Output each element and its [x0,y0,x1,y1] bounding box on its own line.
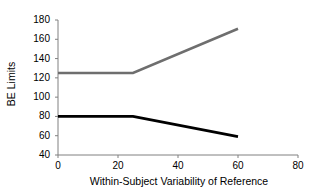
y-axis-title: BE Limits [5,49,17,119]
x-tick-label: 60 [223,161,253,171]
y-tick-label: 80 [20,111,50,121]
chart-container: 406080100120140160180 020406080 BE Limit… [0,0,317,194]
x-axis-title: Within-Subject Variability of Reference [48,175,310,187]
y-tick-label: 40 [20,150,50,160]
x-tick-label: 40 [163,161,193,171]
x-tick-label: 80 [283,161,313,171]
y-tick-label: 180 [20,15,50,25]
y-tick-label: 60 [20,131,50,141]
series-line [58,116,238,136]
y-tick-label: 120 [20,73,50,83]
y-tick-label: 160 [20,34,50,44]
x-tick-label: 0 [43,161,73,171]
data-series-group [58,29,238,137]
y-tick-label: 100 [20,92,50,102]
series-line [58,29,238,73]
x-tick-label: 20 [103,161,133,171]
axis-lines [58,20,298,155]
y-tick-label: 140 [20,54,50,64]
